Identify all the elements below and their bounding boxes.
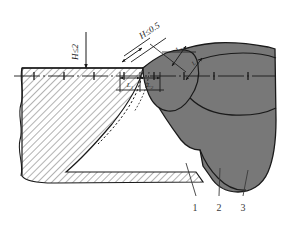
callout-1-number: 1 xyxy=(193,202,198,213)
callout-3-number: 3 xyxy=(241,202,246,213)
weld-deposit-group xyxy=(143,43,276,192)
diagram-root: H≤2 H≤0.5 L1 L2 xyxy=(0,0,282,228)
dimension-height-left: H≤2 xyxy=(70,32,86,68)
height-left-label: H≤2 xyxy=(70,44,80,61)
callout-2-number: 2 xyxy=(217,202,222,213)
weld-cross-section-figure: H≤2 H≤0.5 L1 L2 xyxy=(0,0,282,228)
dimension-height-right: H≤0.5 xyxy=(122,20,166,62)
height-right-ext-line-2 xyxy=(124,38,150,56)
top-surface xyxy=(22,64,160,68)
